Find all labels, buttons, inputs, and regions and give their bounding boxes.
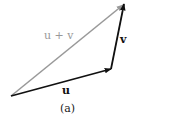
vector-addition-diagram: u + v v u (a) xyxy=(0,0,169,116)
vector-u-plus-v-arrow xyxy=(11,5,123,96)
figure-caption: (a) xyxy=(60,102,75,115)
label-u-plus-v: u + v xyxy=(44,29,74,42)
label-u: u xyxy=(62,84,70,97)
label-v: v xyxy=(119,33,127,46)
vector-u-arrow xyxy=(11,69,111,96)
